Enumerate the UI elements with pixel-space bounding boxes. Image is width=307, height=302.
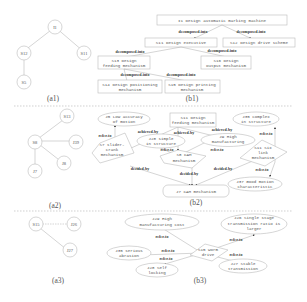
edge-label-b2-refer-2: refer-to bbox=[161, 147, 174, 152]
node-s7-text-2: crank bbox=[106, 148, 119, 152]
edge-label-b1-3: decomposed-into bbox=[116, 49, 145, 54]
node-j27b-text-2: transmission bbox=[228, 267, 259, 271]
node-s12-text: S12 Design drive scheme bbox=[230, 41, 288, 45]
node-j35-text-1: J35 complex bbox=[242, 115, 270, 119]
node-j28b-text-1: J28 Self bbox=[147, 266, 168, 270]
node-j26-label: J26 bbox=[71, 222, 78, 227]
node-s8-text-2: mechanism bbox=[173, 159, 196, 163]
caption-a3: (a3) bbox=[52, 276, 65, 285]
node-j5-text-1: J5 Low accuracy bbox=[105, 115, 143, 119]
edge-label-b1-2: decomposed-into bbox=[237, 29, 266, 34]
node-j35b-text-1: J35 serious bbox=[115, 249, 143, 253]
node-i1-text: I1 Design automatic marking machine bbox=[178, 19, 266, 23]
node-s7-text-3: mechanism bbox=[101, 153, 124, 157]
node-j37-text-1: J37 Good motion bbox=[236, 180, 274, 184]
node-i1-label: I1 bbox=[53, 25, 57, 30]
node-s15-text-2: mechanism bbox=[181, 88, 204, 92]
node-s11b-text-1: S11 Six bbox=[254, 146, 272, 150]
node-j28b-text-2: locking bbox=[148, 271, 166, 275]
node-s11-feeding-text-2: feeding mechanism bbox=[172, 121, 215, 125]
node-s11-text: S11 Design executive bbox=[156, 41, 207, 45]
panel-b3: J29 High manufacturing cost J35 serious … bbox=[107, 214, 287, 285]
node-j28-text-2: in structure bbox=[146, 142, 177, 146]
caption-b3: (b3) bbox=[194, 276, 207, 285]
panel-a2: S13 S8 J39 J8 J7 (a2) bbox=[28, 109, 83, 210]
node-j35-text-2: in structure bbox=[241, 120, 272, 124]
node-s13-label: S13 bbox=[63, 114, 71, 119]
node-s16-text-2: output mechanism bbox=[206, 64, 247, 68]
node-s8-text-1: S8 CAM bbox=[176, 153, 192, 157]
edge-label-b2-achieved-3: achieved-by bbox=[212, 127, 232, 132]
node-s7-text-1: S7 slider- bbox=[99, 143, 124, 147]
edge-label-b1-5: decomposed-into bbox=[121, 72, 150, 77]
diagram-canvas: I1 S12 S11 S5 (a1) I1 Design automatic m… bbox=[0, 0, 307, 302]
node-j5-text-2: of motion bbox=[113, 120, 136, 124]
node-j26b-text-1: J26 Single stage bbox=[234, 216, 275, 220]
node-j9-text-1: J9 High bbox=[219, 135, 237, 139]
node-s8-label: S8 bbox=[33, 140, 39, 145]
edge-label-b1-4: decomposed-into bbox=[208, 48, 237, 53]
edge-label-b3-refer-4: refer-to bbox=[230, 237, 243, 242]
node-s13-text-1: S13 Design bbox=[111, 59, 137, 63]
node-j28-text-1: J28 simple bbox=[148, 137, 174, 141]
node-s5-label: S5 bbox=[22, 80, 28, 85]
caption-a1: (a1) bbox=[47, 94, 60, 103]
node-j29-text-2: manufacturing cost bbox=[139, 223, 185, 227]
node-j27b-text-1: J27 Stable bbox=[230, 262, 256, 266]
edge-label-b2-refer-1: refer-to bbox=[99, 133, 112, 138]
node-j35b-text-2: abrasion bbox=[119, 254, 140, 258]
edge-label-b2-achieved-2: achieved-by bbox=[174, 130, 194, 135]
node-s15-label: S15 bbox=[32, 222, 40, 227]
node-j29-text-1: J29 High bbox=[152, 217, 173, 221]
node-j37-text-2: characteristic bbox=[237, 185, 273, 189]
edge-label-b3-refer-1: refer-to bbox=[156, 234, 169, 239]
node-s13-text-2: feeding mechanism bbox=[103, 64, 146, 68]
node-s12-label: S12 bbox=[20, 51, 27, 56]
edge-label-b1-1: decomposed-into bbox=[179, 29, 208, 34]
node-s15b-text-2: drive bbox=[202, 253, 215, 257]
edge-label-b3-refer-5: refer-to bbox=[230, 252, 243, 257]
edge-label-b1-6: decomposed-into bbox=[167, 72, 196, 77]
edge-label-b2-refer-3: refer-to bbox=[211, 147, 224, 152]
node-j9-text-2: manufacturing bbox=[212, 140, 245, 144]
node-s15b-text-1: S15 Worm bbox=[198, 248, 219, 252]
caption-b2: (b2) bbox=[190, 198, 203, 207]
node-j27-label: J27 bbox=[67, 248, 74, 253]
panel-a1: I1 S12 S11 S5 (a1) bbox=[17, 20, 91, 103]
node-s14-text-1: S14 Design positioning bbox=[102, 83, 158, 87]
caption-b1: (b1) bbox=[186, 94, 199, 103]
node-j26b-text-2: transmission ratio is bbox=[228, 222, 281, 226]
node-s15-text-1: S15 Design printing bbox=[168, 83, 216, 87]
node-s16-text-1: S16 Design bbox=[213, 59, 239, 63]
node-j7-text: J7 CAM mechanism bbox=[176, 190, 217, 194]
edge-label-b3-refer-2: refer-to bbox=[162, 248, 175, 253]
edge-label-b2-decided-1: decided-by bbox=[131, 166, 150, 171]
edge-label-b2-refer-5: refer-to bbox=[256, 167, 269, 172]
edge-label-b3-refer-3: refer-to bbox=[160, 256, 173, 261]
caption-a2: (a2) bbox=[49, 201, 62, 210]
panel-a3: S15 J26 J27 (a3) bbox=[29, 217, 81, 285]
edge-label-b2-decided-2: decided-by bbox=[180, 171, 199, 176]
edge-label-b2-refer-4: refer-to bbox=[260, 131, 273, 136]
node-s11b-text-2: link bbox=[258, 151, 269, 155]
panel-b2: J5 Low accuracy of motion S11 Design fee… bbox=[92, 112, 287, 207]
node-s14-text-2: mechanism bbox=[119, 88, 142, 92]
node-s11-feeding-text-1: S11 Design bbox=[180, 116, 206, 120]
edge-label-b2-achieved-1: achieved-by bbox=[138, 129, 158, 134]
node-j26b-text-3: larger bbox=[246, 227, 262, 231]
edge-label-b2-decided-3: decided-by bbox=[214, 166, 233, 171]
node-j39-label: J39 bbox=[73, 140, 80, 145]
panel-b1: I1 Design automatic marking machine deco… bbox=[98, 15, 295, 103]
node-s11-label: S11 bbox=[81, 51, 88, 56]
node-s11b-text-3: mechanism bbox=[252, 156, 275, 160]
